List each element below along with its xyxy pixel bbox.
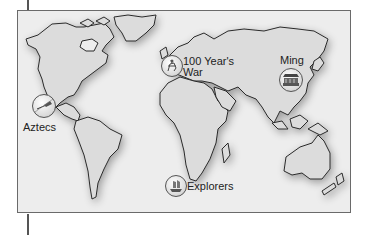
central-america bbox=[56, 103, 80, 121]
caravel-icon bbox=[166, 176, 186, 196]
knight-icon bbox=[162, 56, 182, 76]
ship-icon bbox=[33, 95, 55, 117]
hudson-bay bbox=[80, 39, 98, 51]
world-map: Aztecs 100 Year's War Ming Explorers bbox=[17, 10, 351, 213]
ming-marker[interactable] bbox=[279, 68, 303, 92]
hundred-years-war-marker[interactable] bbox=[161, 55, 183, 77]
timeline-stem-bottom bbox=[27, 214, 29, 235]
temple-icon bbox=[280, 69, 302, 91]
aztecs-marker[interactable] bbox=[32, 94, 56, 118]
explorers-marker[interactable] bbox=[165, 175, 187, 197]
greenland bbox=[114, 15, 156, 41]
indonesia bbox=[272, 115, 328, 135]
south-america bbox=[74, 117, 122, 199]
explorers-label: Explorers bbox=[187, 181, 233, 192]
aztecs-label: Aztecs bbox=[23, 122, 56, 133]
ming-label: Ming bbox=[280, 55, 304, 66]
new-zealand bbox=[322, 173, 344, 195]
australia bbox=[284, 135, 330, 179]
timeline-stem-top bbox=[27, 0, 29, 10]
hundred-years-war-label-line2: War bbox=[183, 67, 203, 78]
madagascar bbox=[222, 143, 230, 163]
